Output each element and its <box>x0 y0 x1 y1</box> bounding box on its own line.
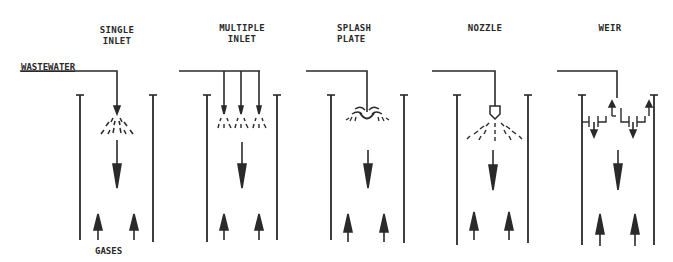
spray-icon <box>101 118 133 134</box>
panel-single-inlet <box>20 71 157 242</box>
panel-nozzle <box>432 71 532 245</box>
panel-weir <box>557 71 658 246</box>
inlet-pipe <box>557 71 617 98</box>
inlet-pipe <box>306 71 367 112</box>
weir-trough-icon <box>582 105 649 127</box>
gas-up-arrow-icon <box>344 214 388 242</box>
gas-up-arrow-icon <box>94 214 138 240</box>
inlet-pipe <box>20 71 117 108</box>
gas-up-arrow-icon <box>470 212 513 240</box>
pipe-tip-icon <box>114 106 120 114</box>
diagram-canvas <box>0 0 673 262</box>
gas-up-arrow-icon <box>220 214 263 240</box>
nozzle-icon <box>490 106 500 119</box>
gas-up-arrow-icon <box>596 214 639 246</box>
inlet-pipe <box>432 71 495 106</box>
panel-multiple-inlet <box>179 71 281 242</box>
spray-icon <box>218 118 266 128</box>
spray-icon <box>467 123 522 141</box>
panel-splash-plate <box>306 71 408 243</box>
